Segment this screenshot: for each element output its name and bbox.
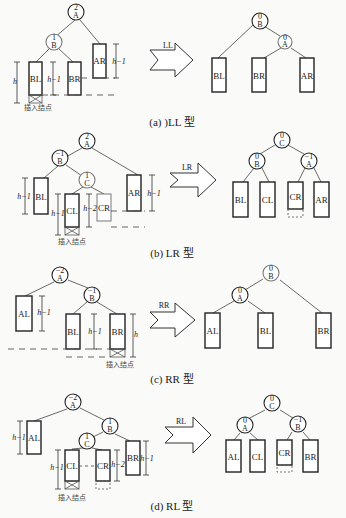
svg-text:B: B: [295, 423, 300, 432]
svg-text:B: B: [107, 425, 112, 434]
svg-text:AR: AR: [301, 71, 314, 81]
svg-text:BL: BL: [260, 326, 272, 336]
svg-text:B: B: [51, 41, 56, 50]
caption-rr: (c) RR 型: [150, 372, 193, 386]
avl-rotation-diagram: 2 A 1 B BL BR AR 插入结点 h h−1 h−1: [0, 0, 346, 518]
arrow-label: LL: [163, 41, 173, 50]
svg-text:B: B: [254, 160, 259, 169]
svg-text:CL: CL: [252, 452, 264, 462]
svg-text:A: A: [73, 11, 79, 20]
svg-text:CL: CL: [66, 206, 78, 216]
svg-text:AR: AR: [315, 195, 328, 205]
svg-text:h−1: h−1: [140, 454, 153, 463]
node-b-after: 0 B: [252, 12, 268, 29]
svg-text:h−1: h−1: [147, 189, 160, 198]
node-a-after: 0 A: [237, 416, 253, 433]
svg-text:h−1: h−1: [88, 327, 101, 336]
svg-text:BR: BR: [253, 71, 265, 81]
insert-label: 插入结点: [58, 237, 86, 246]
svg-text:CR: CR: [278, 448, 290, 458]
node-a: −2 A: [52, 266, 68, 283]
svg-text:A: A: [306, 160, 312, 169]
subtree-bl: BL: [30, 74, 42, 84]
subtree-ar: AR: [93, 56, 106, 66]
node-a: 2 A: [68, 3, 84, 20]
svg-text:h−1: h−1: [12, 433, 25, 442]
arrow-label: RR: [159, 301, 170, 310]
svg-text:h−1: h−1: [50, 463, 63, 472]
node-b: 1 B: [46, 33, 62, 50]
svg-text:h: h: [134, 330, 138, 339]
svg-text:BL: BL: [35, 192, 47, 202]
svg-text:BR: BR: [317, 326, 329, 336]
node-a: 2 A: [79, 132, 95, 149]
node-b-after: −1 B: [290, 415, 306, 432]
caption-lr: (b) LR 型: [150, 246, 193, 260]
node-b: −1 B: [84, 286, 100, 303]
svg-text:A: A: [282, 40, 288, 49]
svg-text:CR: CR: [289, 192, 301, 202]
svg-text:BL: BL: [235, 195, 247, 205]
node-a-after: 0 A: [278, 33, 292, 49]
svg-text:B: B: [89, 294, 94, 303]
svg-text:CR: CR: [98, 203, 110, 213]
node-b-after: 0 B: [249, 152, 265, 169]
insert-label: 插入结点: [106, 360, 134, 369]
arrow-label: LR: [182, 163, 193, 172]
svg-text:h−2: h−2: [83, 204, 96, 213]
caption-rl: (d) RL 型: [151, 499, 194, 513]
arrow-label: RL: [176, 417, 186, 426]
svg-text:C: C: [84, 440, 89, 449]
svg-text:h−1: h−1: [37, 308, 50, 317]
node-b-after: 0 B: [263, 264, 279, 281]
panel-rl: −2 A 1 B 1 C AL CL CR BR 插入结点 h−1 h−1: [12, 393, 318, 513]
svg-text:A: A: [70, 401, 76, 410]
svg-text:C: C: [269, 402, 274, 411]
svg-text:BR: BR: [111, 327, 123, 337]
svg-text:CL: CL: [66, 461, 78, 471]
svg-text:AL: AL: [228, 452, 240, 462]
svg-text:B: B: [268, 272, 273, 281]
panel-ll: 2 A 1 B BL BR AR 插入结点 h h−1 h−1: [13, 3, 314, 129]
node-c-after: 0 C: [274, 131, 290, 148]
svg-text:B: B: [257, 20, 262, 29]
svg-text:A: A: [237, 294, 243, 303]
node-a-after: 0 A: [232, 286, 248, 303]
svg-text:BR: BR: [127, 453, 139, 463]
svg-text:AL: AL: [207, 326, 219, 336]
svg-text:CR: CR: [97, 461, 109, 471]
svg-text:B: B: [57, 157, 62, 166]
insert-label: 插入结点: [58, 493, 86, 502]
svg-text:C: C: [84, 179, 89, 188]
node-b: −1 B: [52, 149, 68, 166]
svg-text:h−2: h−2: [111, 460, 124, 469]
subtree-br: BR: [68, 74, 80, 84]
svg-text:CL: CL: [262, 195, 274, 205]
caption-ll: (a) )LL 型: [149, 115, 194, 129]
svg-text:h−1: h−1: [17, 192, 30, 201]
svg-text:h: h: [13, 77, 17, 86]
insert-label: 插入结点: [24, 103, 52, 112]
svg-text:AL: AL: [28, 433, 40, 443]
svg-text:A: A: [57, 274, 63, 283]
svg-text:h−1: h−1: [47, 75, 60, 84]
node-c-after: 0 C: [264, 394, 280, 411]
svg-text:BL: BL: [213, 71, 225, 81]
svg-text:h−1: h−1: [112, 57, 125, 66]
node-a: −2 A: [65, 393, 81, 410]
svg-text:C: C: [279, 139, 284, 148]
svg-text:BR: BR: [304, 452, 316, 462]
panel-rr: −2 A −1 B AL BL BR 插入结点 h−1 h−1 h RR: [8, 264, 331, 386]
panel-lr: 2 A −1 B 1 C BL CL CR AR 插入结点 h−1 h−1: [17, 131, 329, 260]
node-a-after: −1 A: [301, 152, 317, 169]
svg-text:BL: BL: [67, 327, 79, 337]
svg-text:h−1: h−1: [51, 209, 64, 218]
svg-text:AR: AR: [128, 188, 141, 198]
node-b: 1 B: [102, 417, 118, 434]
svg-text:A: A: [242, 424, 248, 433]
svg-text:AL: AL: [18, 309, 30, 319]
node-c: 1 C: [79, 432, 95, 449]
node-c: 1 C: [79, 171, 95, 188]
svg-text:A: A: [84, 140, 90, 149]
